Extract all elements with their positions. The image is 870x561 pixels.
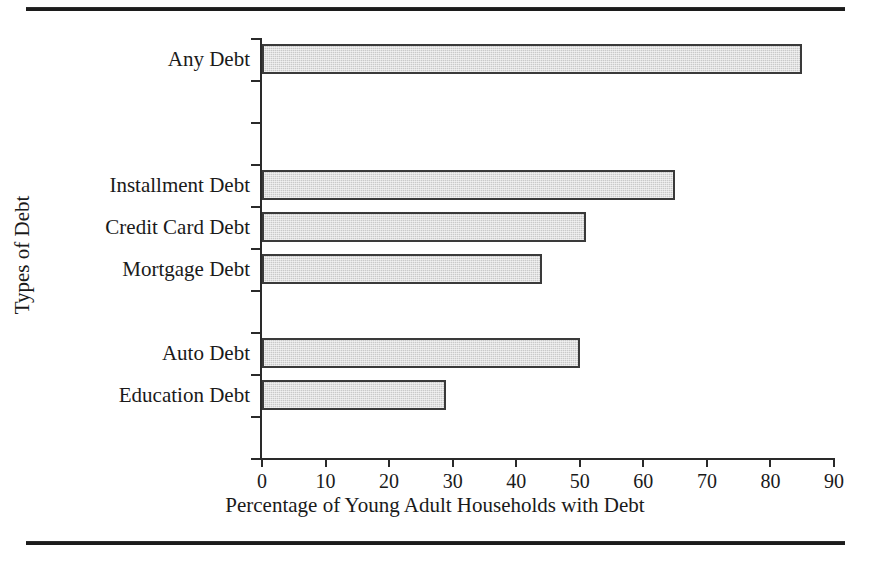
category-label: Mortgage Debt <box>2 257 250 281</box>
x-axis-tick <box>706 458 708 467</box>
x-axis-tick <box>452 458 454 467</box>
y-axis-tick <box>251 206 261 208</box>
figure-top-rule <box>26 7 845 11</box>
x-axis-tick <box>388 458 390 467</box>
bar <box>262 44 802 74</box>
x-axis-spine <box>260 458 834 460</box>
y-axis-tick <box>251 164 261 166</box>
category-label: Auto Debt <box>2 341 250 365</box>
bar <box>262 212 586 242</box>
x-axis-tick-label: 90 <box>824 469 844 493</box>
x-axis-tick-label: 10 <box>316 469 336 493</box>
x-axis-tick-label: 20 <box>379 469 399 493</box>
plot-area: 0102030405060708090 Any DebtInstallment … <box>262 38 834 458</box>
x-axis-tick <box>579 458 581 467</box>
y-axis-tick <box>251 416 261 418</box>
bar <box>262 338 580 368</box>
x-axis-tick-label: 60 <box>633 469 653 493</box>
category-label: Installment Debt <box>2 173 250 197</box>
x-axis-tick <box>325 458 327 467</box>
y-axis-tick <box>251 122 261 124</box>
bar <box>262 254 542 284</box>
x-axis-tick-label: 40 <box>506 469 526 493</box>
x-axis-tick-label: 50 <box>570 469 590 493</box>
category-label: Any Debt <box>2 47 250 71</box>
y-axis-tick <box>251 374 261 376</box>
bar <box>262 170 675 200</box>
x-axis-tick-label: 0 <box>257 469 267 493</box>
figure-bottom-rule <box>26 541 845 545</box>
bar <box>262 380 446 410</box>
x-axis-tick <box>833 458 835 467</box>
y-axis-tick <box>251 38 261 40</box>
category-label: Credit Card Debt <box>2 215 250 239</box>
x-axis-tick <box>515 458 517 467</box>
x-axis-tick-label: 30 <box>443 469 463 493</box>
y-axis-tick <box>251 332 261 334</box>
x-axis-tick <box>642 458 644 467</box>
x-axis-title: Percentage of Young Adult Households wit… <box>0 492 870 518</box>
y-axis-tick <box>251 248 261 250</box>
y-axis-tick <box>251 458 261 460</box>
figure-panel: Types of Debt Percentage of Young Adult … <box>0 0 870 561</box>
category-label: Education Debt <box>2 383 250 407</box>
x-axis-tick <box>261 458 263 467</box>
x-axis-tick-label: 80 <box>760 469 780 493</box>
x-axis-tick-label: 70 <box>697 469 717 493</box>
y-axis-tick <box>251 80 261 82</box>
y-axis-tick <box>251 290 261 292</box>
x-axis-tick <box>769 458 771 467</box>
